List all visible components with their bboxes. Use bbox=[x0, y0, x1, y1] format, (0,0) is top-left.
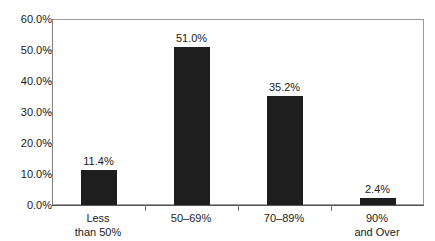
x-axis-label-line2: and Over bbox=[322, 225, 432, 239]
bar-value-label-4: 2.4% bbox=[365, 184, 390, 195]
bar-slot-1: 11.4% bbox=[52, 19, 145, 205]
y-axis-label-0: 0.0% bbox=[6, 200, 52, 211]
x-axis-label-line1: 90% bbox=[366, 212, 388, 224]
bar-90-and-over[interactable] bbox=[360, 198, 396, 205]
bar-value-label-3: 35.2% bbox=[269, 82, 300, 93]
y-axis-tick-20 bbox=[46, 143, 51, 144]
y-axis-tick-30 bbox=[46, 112, 51, 113]
y-axis-tick-10 bbox=[46, 174, 51, 175]
bar-chart: 60.0% 50.0% 40.0% 30.0% 20.0% 10.0% 0.0%… bbox=[0, 0, 435, 241]
bars-layer: 11.4% 51.0% 35.2% 2.4% bbox=[52, 19, 424, 205]
x-axis-label-90-and-over: 90% and Over bbox=[322, 211, 432, 239]
y-axis-tick-50 bbox=[46, 50, 51, 51]
bar-50-69[interactable] bbox=[174, 47, 210, 205]
y-axis: 60.0% 50.0% 40.0% 30.0% 20.0% 10.0% 0.0% bbox=[0, 0, 52, 241]
bar-value-label-2: 51.0% bbox=[176, 33, 207, 44]
y-axis-label-60: 60.0% bbox=[6, 14, 52, 25]
x-axis-label-line1: 50–69% bbox=[171, 212, 211, 224]
bar-value-label-1: 11.4% bbox=[83, 156, 113, 167]
y-axis-tick-40 bbox=[46, 81, 51, 82]
x-axis-label-line1: 70–89% bbox=[264, 212, 304, 224]
bar-slot-2: 51.0% bbox=[145, 19, 238, 205]
x-axis-label-line2: than 50% bbox=[43, 225, 153, 239]
bar-slot-3: 35.2% bbox=[238, 19, 331, 205]
bar-slot-4: 2.4% bbox=[331, 19, 424, 205]
bar-70-89[interactable] bbox=[267, 96, 303, 205]
bar-less-than-50[interactable] bbox=[81, 170, 117, 205]
x-axis-label-line1: Less bbox=[86, 212, 109, 224]
